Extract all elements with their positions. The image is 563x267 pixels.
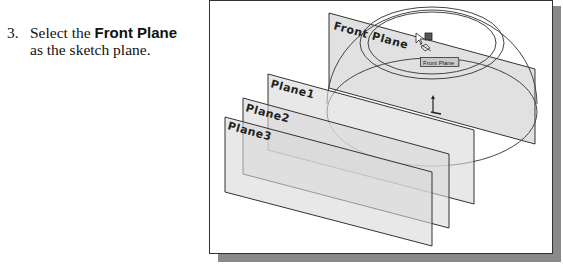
selection-handle-icon[interactable]: [425, 33, 432, 40]
tooltip: Front Plane: [421, 58, 460, 68]
model-scene[interactable]: Front Plane Plane1 Plane2 Plane3: [0, 0, 563, 267]
tooltip-text: Front Plane: [423, 60, 455, 66]
